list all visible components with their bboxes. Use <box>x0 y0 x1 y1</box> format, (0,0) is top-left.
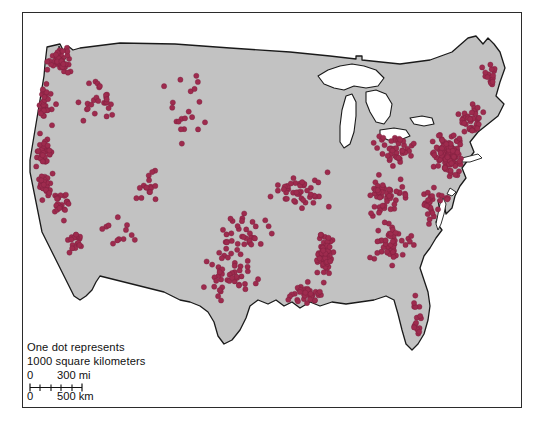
density-dot <box>424 203 429 208</box>
density-dot <box>217 287 222 292</box>
density-dot <box>252 236 257 241</box>
density-dot <box>258 241 263 246</box>
density-dot <box>371 140 376 145</box>
density-dot <box>195 79 200 84</box>
density-dot <box>232 263 237 268</box>
density-dot <box>242 281 247 286</box>
density-dot <box>403 242 408 247</box>
density-dot <box>250 219 255 224</box>
density-dot <box>65 70 70 75</box>
density-dot <box>317 256 322 261</box>
legend-line-2: 1000 square kilometers <box>27 355 187 369</box>
density-dot <box>242 242 247 247</box>
density-dot <box>47 148 52 153</box>
density-dot <box>228 216 233 221</box>
density-dot <box>275 182 280 187</box>
density-dot <box>201 285 206 290</box>
density-dot <box>418 313 423 318</box>
scale-row-miles: 0 300 mi <box>27 369 147 382</box>
density-dot <box>456 112 461 117</box>
density-dot <box>190 115 195 120</box>
us-landmass <box>30 36 505 350</box>
density-dot <box>438 150 443 155</box>
density-dot <box>312 298 317 303</box>
density-dot <box>490 79 495 84</box>
density-dot <box>462 129 467 134</box>
density-dot <box>178 77 183 82</box>
density-dot <box>146 178 151 183</box>
landmass-group <box>30 36 505 350</box>
density-dot <box>195 127 200 132</box>
density-dot <box>316 180 321 185</box>
density-dot <box>176 119 181 124</box>
density-dot <box>263 218 268 223</box>
density-dot <box>390 249 395 254</box>
density-dot <box>281 187 286 192</box>
scale-miles-zero: 0 <box>27 369 33 381</box>
scale-row-kilometers: 0 500 km <box>27 390 147 403</box>
density-dot <box>327 244 332 249</box>
density-dot <box>170 100 175 105</box>
density-dot <box>400 148 405 153</box>
density-dot <box>390 263 395 268</box>
density-dot <box>268 194 273 199</box>
density-dot <box>161 84 166 89</box>
density-dot <box>308 192 313 197</box>
density-dot <box>245 258 250 263</box>
density-dot <box>220 227 225 232</box>
density-dot <box>286 297 291 302</box>
density-dot <box>389 138 394 143</box>
density-dot <box>104 97 109 102</box>
density-dot <box>241 234 246 239</box>
density-dot <box>297 289 302 294</box>
density-dot <box>242 211 247 216</box>
density-dot <box>326 235 331 240</box>
density-dot <box>445 155 450 160</box>
density-dot <box>425 211 430 216</box>
density-dot <box>153 197 158 202</box>
density-dot <box>449 161 454 166</box>
density-dot <box>288 181 293 186</box>
density-dot <box>178 127 183 132</box>
density-dot <box>431 164 436 169</box>
density-dot <box>376 210 381 215</box>
density-dot <box>194 73 199 78</box>
density-dot <box>85 106 90 111</box>
density-dot <box>186 109 191 114</box>
density-dot <box>400 252 405 257</box>
density-dot <box>305 279 310 284</box>
density-dot <box>81 118 86 123</box>
density-dot <box>66 201 71 206</box>
density-dot <box>470 128 475 133</box>
density-dot <box>431 185 436 190</box>
density-dot <box>219 256 224 261</box>
density-dot <box>382 143 387 148</box>
density-dot <box>380 183 385 188</box>
density-dot <box>430 210 435 215</box>
density-dot <box>375 239 380 244</box>
density-dot <box>475 126 480 131</box>
density-dot <box>216 294 221 299</box>
density-dot <box>69 237 74 242</box>
density-dot <box>179 141 184 146</box>
density-dot <box>393 230 398 235</box>
density-dot <box>413 293 418 298</box>
density-dot <box>137 185 142 190</box>
density-dot <box>375 145 380 150</box>
density-dot <box>45 59 50 64</box>
density-dot <box>490 73 495 78</box>
density-dot <box>100 226 105 231</box>
density-dot <box>97 83 102 88</box>
density-dot <box>106 106 111 111</box>
density-dot <box>432 153 437 158</box>
density-dot <box>475 105 480 110</box>
density-dot <box>40 87 45 92</box>
density-dot <box>382 220 387 225</box>
density-dot <box>123 227 128 232</box>
density-dot <box>182 116 187 121</box>
density-dot <box>170 105 175 110</box>
density-dot <box>489 67 494 72</box>
density-dot <box>224 240 229 245</box>
density-dot <box>458 142 463 147</box>
density-dot <box>476 115 481 120</box>
